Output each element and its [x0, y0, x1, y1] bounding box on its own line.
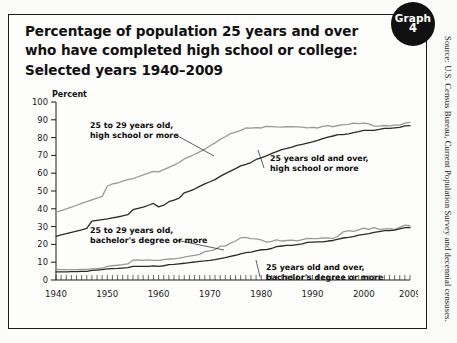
x-tick-label: 1960 [148, 289, 170, 299]
ann-25over-ba-leader [256, 260, 260, 277]
y-tick-label: 50 [37, 186, 48, 196]
y-tick-label: 10 [37, 257, 48, 267]
ann-25to29-ba-line-1: bachelor's degree or more [90, 236, 207, 245]
graph-number-badge: Graph 4 [391, 2, 435, 46]
series-line-1 [56, 126, 410, 237]
x-tick-label: 1940 [45, 289, 67, 299]
chart-svg: Percent010203040506070809010019401950196… [18, 88, 418, 313]
ann-25to29-ba-line-0: 25 to 29 years old, [90, 226, 173, 235]
y-tick-label: 20 [37, 239, 48, 249]
source-note-text: Source: U.S. Census Bureau, Current Popu… [443, 36, 453, 322]
ann-25to29-ba: 25 to 29 years old,bachelor's degree or … [90, 226, 207, 245]
x-tick-label: 1980 [250, 289, 272, 299]
ann-25to29-hs: 25 to 29 years old,high school or more [90, 121, 179, 140]
y-tick-label: 0 [43, 275, 48, 285]
page-title-line-3: Selected years 1940–2009 [25, 61, 355, 80]
ann-25to29-hs-line-0: 25 to 29 years old, [90, 121, 173, 130]
ann-25to29-hs-line-1: high school or more [90, 131, 179, 140]
ann-25over-ba-line-1: bachelor's degree or more [266, 273, 383, 282]
y-tick-label: 100 [32, 97, 48, 107]
ann-25to29-hs-leader [176, 135, 214, 156]
page-title: Percentage of population 25 years and ov… [25, 22, 355, 80]
x-tick-label: 1990 [302, 289, 324, 299]
y-tick-label: 80 [37, 133, 48, 143]
ann-25over-ba-line-0: 25 years old and over, [266, 263, 364, 272]
y-axis-label: Percent [52, 90, 87, 99]
y-tick-label: 30 [37, 222, 48, 232]
y-tick-label: 60 [37, 168, 48, 178]
y-tick-label: 90 [37, 115, 48, 125]
y-tick-label: 40 [37, 204, 48, 214]
x-tick-label: 2000 [353, 289, 375, 299]
line-chart: Percent010203040506070809010019401950196… [18, 88, 418, 313]
x-tick-label: 1970 [199, 289, 221, 299]
ann-25over-hs-line-0: 25 years old and over, [270, 154, 368, 163]
ann-25over-hs: 25 years old and over,high school or mor… [270, 154, 368, 173]
x-tick-label: 1950 [96, 289, 118, 299]
page-title-line-1: Percentage of population 25 years and ov… [25, 22, 355, 41]
y-tick-label: 70 [37, 150, 48, 160]
ann-25over-hs-line-1: high school or more [270, 164, 359, 173]
ann-25over-ba: 25 years old and over,bachelor's degree … [266, 263, 383, 282]
graph-page: Graph 4 Percentage of population 25 year… [0, 0, 457, 343]
page-title-line-2: who have completed high school or colleg… [25, 41, 355, 60]
source-note: Source: U.S. Census Bureau, Current Popu… [442, 36, 456, 336]
x-tick-label: 2009 [399, 289, 418, 299]
graph-badge-number: 4 [409, 23, 417, 35]
